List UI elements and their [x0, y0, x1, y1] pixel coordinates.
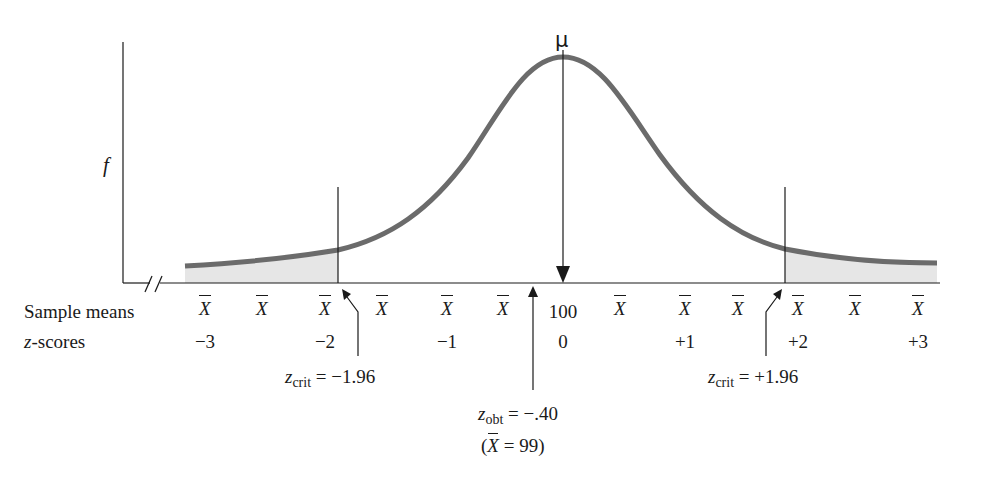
normal-curve — [185, 57, 937, 266]
overline — [199, 295, 211, 296]
z-score-tick-label: +3 — [908, 332, 928, 351]
overline — [497, 295, 509, 296]
sample-mean-text: X — [497, 298, 509, 319]
overline — [441, 295, 453, 296]
sampling-distribution-figure: f μ Sample means z-scores XXXXXX100XXXXX… — [0, 0, 983, 481]
z-obt-sample-var: X — [487, 436, 499, 455]
mean-label: μ — [555, 30, 568, 51]
z-obt-arrowhead-icon — [528, 286, 538, 297]
sample-mean-xbar: X — [376, 295, 388, 318]
z-crit-left-sub: crit — [292, 375, 311, 390]
mean-arrowhead-icon — [556, 266, 570, 283]
z-crit-left-arrow-line — [347, 297, 358, 356]
z-scores-label-rest: -scores — [31, 331, 85, 352]
sample-mean-text: X — [376, 298, 388, 319]
sample-mean-xbar: X — [849, 295, 861, 318]
sample-mean-text: 100 — [549, 301, 578, 322]
overline — [614, 295, 626, 296]
overline — [376, 295, 388, 296]
axis-break-icon — [145, 276, 162, 292]
sample-mean-text: X — [912, 298, 924, 319]
overline — [849, 295, 861, 296]
z-scores-row-label: z-scores — [24, 332, 85, 351]
sample-mean-center-value: 100 — [549, 302, 578, 321]
z-crit-right-value: = +1.96 — [734, 366, 798, 387]
z-crit-left-value: = −1.96 — [311, 366, 375, 387]
y-axis-label: f — [103, 155, 109, 176]
sample-mean-xbar: X — [792, 295, 804, 318]
z-crit-right-arrowhead-icon — [773, 289, 782, 300]
sample-mean-text: X — [849, 298, 861, 319]
z-score-tick-label: +1 — [675, 332, 695, 351]
overline — [732, 295, 744, 296]
z-score-tick-label: −1 — [437, 332, 457, 351]
overline — [319, 295, 331, 296]
z-obt-sample-mean-label: (X = 99) — [481, 436, 544, 455]
sample-mean-text: X — [679, 298, 691, 319]
z-obt-sub: obt — [485, 412, 503, 427]
z-crit-right-label: zcrit = +1.96 — [708, 367, 798, 390]
sample-mean-xbar: X — [614, 295, 626, 318]
z-score-tick-label: 0 — [558, 332, 568, 351]
z-crit-left-arrowhead-icon — [342, 289, 351, 300]
sample-mean-xbar: X — [319, 295, 331, 318]
z-obt-label: zobt = −.40 — [478, 404, 558, 427]
overline — [912, 295, 924, 296]
sample-mean-text: X — [256, 298, 268, 319]
sample-mean-xbar: X — [199, 295, 211, 318]
z-score-tick-label: +2 — [788, 332, 808, 351]
sample-mean-text: X — [199, 298, 211, 319]
z-crit-right-arrow-line — [766, 297, 777, 356]
z-obt-value: = −.40 — [503, 403, 558, 424]
sample-mean-xbar: X — [497, 295, 509, 318]
sample-mean-text: X — [792, 298, 804, 319]
sample-mean-text: X — [732, 298, 744, 319]
sample-mean-xbar: X — [732, 295, 744, 318]
overline — [679, 295, 691, 296]
sample-mean-xbar: X — [679, 295, 691, 318]
sample-mean-text: X — [319, 298, 331, 319]
z-score-tick-label: −2 — [315, 332, 335, 351]
sample-mean-xbar: X — [441, 295, 453, 318]
sample-mean-xbar: X — [256, 295, 268, 318]
overline — [792, 295, 804, 296]
z-score-tick-label: −3 — [195, 332, 215, 351]
sample-means-row-label: Sample means — [24, 302, 134, 321]
overline — [256, 295, 268, 296]
z-crit-left-label: zcrit = −1.96 — [285, 367, 375, 390]
z-crit-right-sub: crit — [715, 375, 734, 390]
z-obt-sample-value: = 99) — [499, 435, 545, 456]
sample-mean-text: X — [441, 298, 453, 319]
sample-mean-text: X — [614, 298, 626, 319]
sample-mean-xbar: X — [912, 295, 924, 318]
